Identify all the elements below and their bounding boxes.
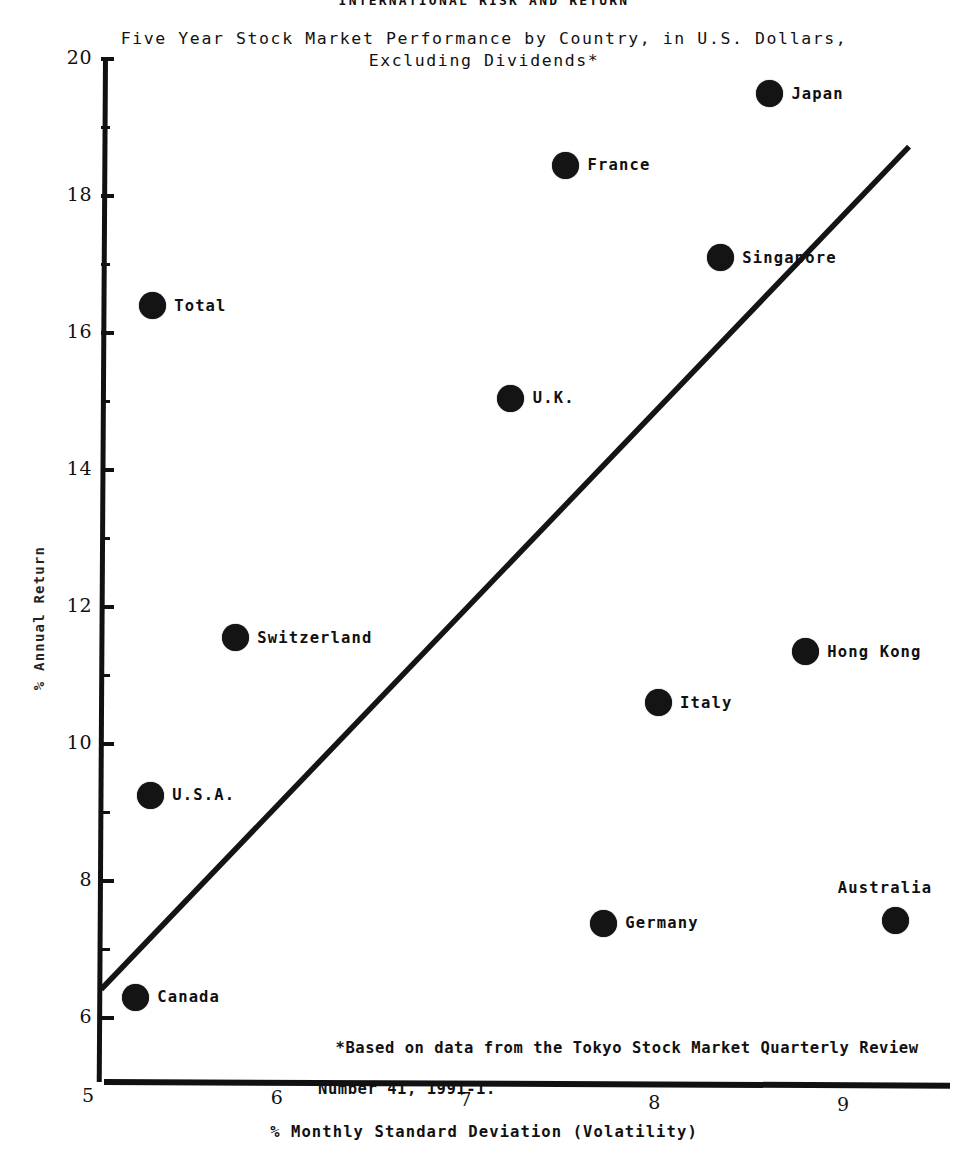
data-point xyxy=(222,624,249,651)
data-point-label: Switzerland xyxy=(257,629,372,647)
source-footnote: *Based on data from the Tokyo Stock Mark… xyxy=(296,1018,919,1141)
data-point xyxy=(707,244,734,271)
data-point-label: Japan xyxy=(791,85,843,103)
data-point-label: Canada xyxy=(157,988,220,1006)
source-footnote-line1: *Based on data from the Tokyo Stock Mark… xyxy=(336,1039,919,1057)
data-point xyxy=(645,689,672,716)
data-point xyxy=(137,782,164,809)
data-point-label: Singapore xyxy=(742,249,836,267)
data-point-label: France xyxy=(588,156,651,174)
data-point-label: Australia xyxy=(838,879,932,897)
data-point xyxy=(882,907,909,934)
data-point-label: Total xyxy=(174,297,226,315)
data-point xyxy=(122,984,149,1011)
data-point-label: Germany xyxy=(625,914,698,932)
data-point xyxy=(139,292,166,319)
data-point-label: Hong Kong xyxy=(827,643,921,661)
data-point xyxy=(590,910,617,937)
data-point-label: Italy xyxy=(680,694,732,712)
data-point-label: U.S.A. xyxy=(172,786,235,804)
data-point xyxy=(497,385,524,412)
scatter-plot-area: JapanFranceSingaporeTotalU.K.Switzerland… xyxy=(0,0,968,1162)
source-footnote-line2: Number 41, 1991-1. xyxy=(296,1079,919,1099)
data-point xyxy=(756,80,783,107)
data-point xyxy=(552,152,579,179)
chart-figure: INTERNATIONAL RISK AND RETURN Five Year … xyxy=(0,0,968,1162)
data-point xyxy=(792,638,819,665)
data-point-label: U.K. xyxy=(533,389,575,407)
